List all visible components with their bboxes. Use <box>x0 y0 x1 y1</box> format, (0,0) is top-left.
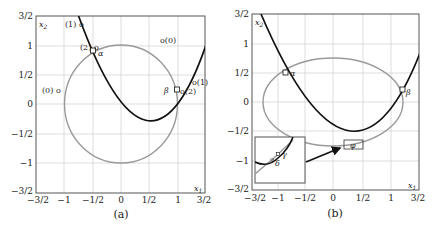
svg-text:1/2: 1/2 <box>19 70 33 80</box>
beta-marker-a <box>175 87 180 92</box>
plot-frame-a <box>36 16 205 193</box>
svg-text:3/2: 3/2 <box>19 11 33 21</box>
svg-text:−1/2: −1/2 <box>82 195 104 205</box>
svg-text:0: 0 <box>243 97 249 107</box>
svg-text:0: 0 <box>27 99 33 109</box>
svg-text:3/2: 3/2 <box>197 195 211 205</box>
beta-marker-b <box>400 87 405 92</box>
beta-label-a: β <box>163 86 169 95</box>
label-iter1-right: o(1) <box>192 78 208 87</box>
y-axis-label-b: x2 <box>255 18 264 28</box>
panel-b: α β φ γ ∇ δ x2 x1 3/2 1 1/2 0 −1/2 <box>227 9 425 220</box>
parabola-curve-a <box>79 16 206 121</box>
svg-text:−1: −1 <box>57 195 70 205</box>
svg-text:−1/2: −1/2 <box>11 129 33 139</box>
alpha-label-b: α <box>290 69 296 78</box>
svg-text:0: 0 <box>118 195 124 205</box>
inset-arrow <box>306 148 340 162</box>
label-iter1-left: (1) o <box>65 20 84 29</box>
label-iter2-left: (2) o <box>80 43 99 52</box>
x-axis-label-b: x1 <box>408 181 416 191</box>
y-ticks-b: 3/2 1 1/2 0 −1/2 −1 −3/2 <box>227 9 249 194</box>
alpha-label-a: α <box>98 49 104 58</box>
alpha-marker-b <box>283 70 288 75</box>
x-ticks-b: −3/2 −1 −1/2 0 1/2 1 3/2 <box>244 193 425 203</box>
svg-text:−1/2: −1/2 <box>227 126 249 136</box>
panel-a: (1) o (2) o (0) o o(0) o(1) o(2) α β x2 … <box>11 11 211 221</box>
figure: (1) o (2) o (0) o o(0) o(1) o(2) α β x2 … <box>0 0 435 232</box>
svg-text:3/2: 3/2 <box>411 193 425 203</box>
nabla-label: ∇ <box>270 157 274 164</box>
x-axis-label-a: x1 <box>194 184 202 194</box>
inset-panel: γ ∇ δ <box>255 137 305 183</box>
phi-label: φ <box>350 141 356 150</box>
gamma-marker <box>277 153 280 156</box>
svg-text:1: 1 <box>243 39 249 49</box>
caption-b: (b) <box>327 207 343 220</box>
svg-text:1/2: 1/2 <box>235 68 249 78</box>
svg-text:1: 1 <box>175 195 181 205</box>
y-ticks-a: 3/2 1 1/2 0 −1/2 −1 −3/2 <box>11 11 33 196</box>
svg-text:−1: −1 <box>271 193 284 203</box>
svg-text:1: 1 <box>27 41 33 51</box>
label-iter0-right: o(0) <box>160 36 176 45</box>
svg-text:1/2: 1/2 <box>356 193 370 203</box>
svg-text:3/2: 3/2 <box>235 9 249 19</box>
svg-text:0: 0 <box>330 193 336 203</box>
svg-text:−1/2: −1/2 <box>294 193 316 203</box>
label-iter0-left: (0) o <box>42 86 61 95</box>
y-axis-label-a: x2 <box>39 20 48 30</box>
grid-a <box>36 16 205 193</box>
svg-text:−3/2: −3/2 <box>244 193 266 203</box>
caption-a: (a) <box>113 208 128 221</box>
svg-text:−3/2: −3/2 <box>27 195 49 205</box>
beta-label-b: β <box>405 88 411 97</box>
svg-text:1: 1 <box>388 193 394 203</box>
svg-text:−1: −1 <box>236 156 249 166</box>
gamma-label: γ <box>282 150 287 159</box>
delta-label: δ <box>275 159 280 168</box>
label-iter2-right: o(2) <box>180 87 196 96</box>
svg-text:1/2: 1/2 <box>142 195 156 205</box>
svg-text:−1: −1 <box>20 158 33 168</box>
x-ticks-a: −3/2 −1 −1/2 0 1/2 1 3/2 <box>27 195 211 205</box>
